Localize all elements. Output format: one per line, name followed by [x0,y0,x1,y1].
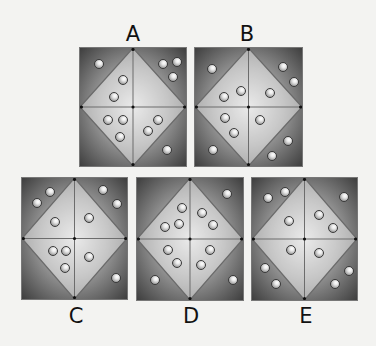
ball-icon [271,279,281,289]
ball-icon [314,210,324,220]
ball-icon [330,279,340,289]
ball-icon [197,208,207,218]
ball-icon [61,246,71,256]
option-label-b: B [235,24,259,45]
ball-icon [265,88,275,98]
ball-icon [118,115,128,125]
ball-icon [286,245,296,255]
ball-icon [168,72,178,82]
option-panel-b[interactable] [194,47,303,167]
ball-icon [153,115,163,125]
ball-icon [267,151,277,161]
ball-icon [219,92,229,102]
ball-icon [228,275,238,285]
ball-icon [163,245,173,255]
option-label-a: A [121,24,145,45]
ball-icon [94,59,104,69]
ball-icon [115,132,125,142]
ball-icon [278,62,288,72]
ball-icon [289,77,299,87]
ball-icon [283,136,293,146]
ball-icon [236,86,246,96]
option-label-e: E [294,306,318,327]
option-label-c: C [64,306,88,327]
ball-icon [196,260,206,270]
ball-icon [160,222,170,232]
ball-icon [50,217,60,227]
ball-icon [177,203,187,213]
ball-icon [150,275,160,285]
ball-icon [205,245,215,255]
option-panel-a[interactable] [79,47,187,167]
ball-icon [98,185,108,195]
ball-icon [60,263,70,273]
ball-icon [48,246,58,256]
option-panel-d[interactable] [136,177,244,301]
ball-icon [344,266,354,276]
ball-icon [220,113,230,123]
ball-icon [208,145,218,155]
ball-icon [174,219,184,229]
ball-icon [111,273,121,283]
ball-icon [162,145,172,155]
ball-icon [314,248,324,258]
ball-icon [229,128,239,138]
ball-icon [280,187,290,197]
ball-icon [222,189,232,199]
ball-icon [109,92,119,102]
ball-icon [172,258,182,268]
ball-icon [339,192,349,202]
option-panel-e[interactable] [251,177,358,301]
ball-icon [255,115,265,125]
ball-icon [207,64,217,74]
ball-icon [263,193,273,203]
ball-icon [158,59,168,69]
ball-icon [84,213,94,223]
ball-icon [103,115,113,125]
ball-icon [84,252,94,262]
ball-icon [32,198,42,208]
ball-icon [172,57,182,67]
ball-icon [328,223,338,233]
ball-icon [112,199,122,209]
ball-icon [260,263,270,273]
ball-icon [118,75,128,85]
ball-icon [208,220,218,230]
ball-icon [143,126,153,136]
option-label-d: D [179,306,203,327]
ball-icon [284,216,294,226]
ball-icon [45,187,55,197]
option-panel-c[interactable] [21,177,128,300]
